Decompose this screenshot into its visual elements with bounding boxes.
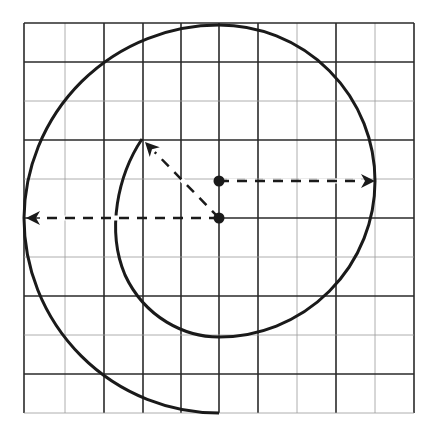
spiral-diagram xyxy=(0,0,436,438)
arrowhead-icon xyxy=(361,174,375,188)
upper-center-dot xyxy=(214,176,225,187)
lower-center-dot xyxy=(214,213,225,224)
radius-arrows xyxy=(26,142,375,225)
